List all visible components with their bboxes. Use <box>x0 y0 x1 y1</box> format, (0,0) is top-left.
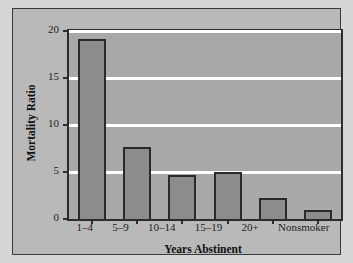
y-axis-label: 0 <box>13 211 59 223</box>
x-axis-labels: 1–45–910–1415–1920+Nonsmoker <box>67 221 339 239</box>
bar <box>259 198 287 219</box>
bar <box>78 39 106 219</box>
x-axis-label: 15–19 <box>195 221 223 233</box>
plot-area <box>67 29 343 221</box>
y-axis-label: 10 <box>13 117 59 129</box>
bar <box>214 172 242 219</box>
x-axis-title: Years Abstinent <box>67 243 339 255</box>
x-axis-label: Nonsmoker <box>278 221 329 233</box>
y-axis-label: 5 <box>13 164 59 176</box>
bar-series <box>69 31 341 219</box>
bar <box>123 147 151 219</box>
y-axis-label: 20 <box>13 23 59 35</box>
bar <box>168 175 196 219</box>
x-axis-label: 1–4 <box>77 221 94 233</box>
x-axis-label: 20+ <box>242 221 259 233</box>
x-axis-label: 5–9 <box>112 221 129 233</box>
y-axis-label: 15 <box>13 70 59 82</box>
bar <box>304 210 332 219</box>
chart-panel: Mortality Ratio 05101520 1–45–910–1415–1… <box>12 8 341 255</box>
figure: Mortality Ratio 05101520 1–45–910–1415–1… <box>0 0 353 263</box>
x-axis-label: 10–14 <box>148 221 176 233</box>
plot-inner <box>69 31 341 219</box>
